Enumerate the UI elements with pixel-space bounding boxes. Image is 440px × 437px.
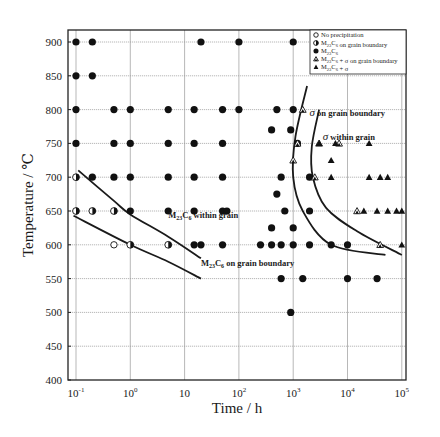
data-point-filled-triangle (328, 157, 335, 163)
data-point-filled-circle (165, 174, 172, 181)
data-point-filled-circle (290, 106, 297, 113)
data-point-filled-circle (235, 38, 242, 45)
data-point-filled-circle (72, 106, 79, 113)
curve-label: σ on grain boundary (310, 106, 386, 118)
data-point-filled-circle (197, 241, 204, 248)
y-tick-label: 650 (46, 205, 63, 217)
y-tick-label: 550 (46, 273, 63, 285)
data-point-filled-circle (165, 140, 172, 147)
legend: No precipitationM23C6 on grain boundaryM… (310, 30, 406, 74)
data-point-filled-circle (127, 174, 134, 181)
data-point-filled-circle (268, 126, 275, 133)
legend-marker-filled-circle (313, 48, 318, 53)
x-tick-label: 103 (286, 386, 301, 399)
data-point-filled-circle (89, 72, 96, 79)
data-point-filled-circle (373, 275, 380, 282)
y-tick-label: 850 (46, 70, 63, 82)
data-point-filled-circle (219, 174, 226, 181)
data-point-filled-circle (110, 140, 117, 147)
data-point-filled-circle (219, 140, 226, 147)
y-tick-label: 500 (46, 306, 63, 318)
data-point-filled-circle (219, 106, 226, 113)
legend-label: No precipitation (321, 31, 364, 38)
x-tick-label: 105 (395, 386, 410, 399)
x-tick-label: 104 (340, 386, 355, 399)
data-point-filled-circle (306, 207, 313, 214)
curve-label: σ within grain (323, 130, 375, 142)
data-point-filled-circle (72, 72, 79, 79)
data-point-filled-circle (127, 140, 134, 147)
data-point-filled-circle (344, 275, 351, 282)
data-point-half-circle (89, 208, 96, 215)
data-point-filled-circle (268, 241, 275, 248)
data-point-half-circle (73, 174, 80, 181)
data-point-filled-circle (273, 106, 280, 113)
data-point-filled-circle (278, 275, 285, 282)
x-tick-label: 10-1 (68, 386, 85, 399)
y-tick-label: 450 (46, 340, 63, 352)
data-point-open-triangle (290, 157, 297, 163)
data-point-half-circle (111, 208, 118, 215)
data-point-filled-circle (281, 207, 288, 214)
curve-label: M23C6 on grain boundary (201, 258, 295, 269)
x-tick-label: 102 (232, 386, 247, 399)
data-point-filled-circle (328, 241, 335, 248)
data-point-filled-circle (287, 309, 294, 316)
precipitation-ttp-chart: 40045050055060065070075080085090010-1100… (0, 0, 440, 437)
data-point-filled-circle (290, 241, 297, 248)
data-point-filled-circle (72, 140, 79, 147)
legend-marker-open-circle (314, 33, 318, 37)
data-point-filled-circle (127, 106, 134, 113)
y-tick-label: 700 (46, 171, 63, 183)
data-point-filled-circle (235, 106, 242, 113)
y-tick-label: 600 (46, 239, 63, 251)
data-point-filled-circle (127, 207, 134, 214)
x-tick-label: 10 (179, 387, 191, 399)
data-point-filled-circle (219, 241, 226, 248)
data-point-filled-circle (306, 241, 313, 248)
data-point-filled-circle (344, 241, 351, 248)
data-point-filled-circle (89, 38, 96, 45)
data-point-filled-circle (191, 140, 198, 147)
data-point-filled-circle (290, 38, 297, 45)
data-point-filled-circle (197, 38, 204, 45)
y-tick-label: 800 (46, 104, 63, 116)
data-point-filled-circle (299, 275, 306, 282)
data-point-filled-circle (89, 174, 96, 181)
data-point-filled-circle (290, 224, 297, 231)
data-point-filled-circle (165, 106, 172, 113)
x-axis-title: Time / h (212, 400, 263, 416)
data-point-filled-circle (278, 241, 285, 248)
y-axis-title: Temperature / ℃ (20, 153, 36, 257)
curve-label: M23C6 within grain (168, 210, 238, 221)
data-point-filled-circle (72, 38, 79, 45)
data-point-half-circle (165, 241, 172, 248)
data-point-half-circle (73, 208, 80, 215)
data-point-open-circle (111, 242, 117, 248)
data-point-filled-circle (191, 174, 198, 181)
data-point-half-circle (127, 241, 134, 248)
y-tick-label: 750 (46, 137, 63, 149)
y-tick-label: 900 (46, 36, 63, 48)
boundary-curve (74, 216, 201, 279)
x-tick-label: 100 (123, 386, 138, 399)
y-tick-label: 400 (46, 374, 63, 386)
data-point-filled-circle (257, 241, 264, 248)
data-point-filled-circle (287, 126, 294, 133)
data-point-filled-circle (273, 191, 280, 198)
data-point-filled-circle (278, 174, 285, 181)
data-point-filled-circle (268, 224, 275, 231)
data-point-filled-circle (110, 174, 117, 181)
legend-marker-half-circle (314, 41, 319, 46)
data-point-filled-circle (191, 241, 198, 248)
data-point-filled-circle (191, 106, 198, 113)
data-point-filled-circle (110, 106, 117, 113)
